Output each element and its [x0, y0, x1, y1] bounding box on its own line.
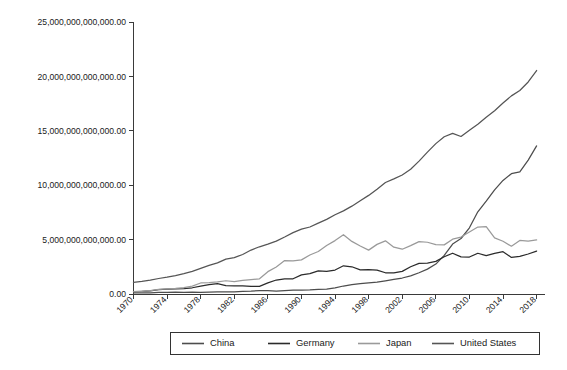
series-lines [134, 71, 537, 293]
x-tick-label: 1990 [282, 294, 303, 315]
chart-legend: ChinaGermanyJapanUnited States [171, 333, 540, 355]
y-tick-label: 20,000,000,000,000.00 [38, 72, 127, 82]
y-axis-tick-marks [129, 22, 134, 294]
y-tick-label: 5,000,000,000,000.00 [42, 235, 126, 245]
y-tick-label: 25,000,000,000,000.00 [38, 17, 127, 27]
x-tick-label: 2010 [450, 294, 471, 315]
x-tick-label: 2018 [517, 294, 538, 315]
line-chart: 0.005,000,000,000,000.0010,000,000,000,0… [0, 0, 567, 370]
x-tick-label: 1994 [316, 294, 337, 315]
legend-label-china: China [210, 337, 235, 348]
x-tick-label: 2014 [484, 294, 505, 315]
x-tick-label: 1986 [249, 294, 270, 315]
series-line-united-states [134, 71, 537, 283]
x-tick-label: 1998 [349, 294, 370, 315]
y-tick-label: 10,000,000,000,000.00 [38, 180, 127, 190]
x-tick-label: 1982 [215, 294, 236, 315]
x-tick-label: 1978 [182, 294, 203, 315]
y-tick-label: 15,000,000,000,000.00 [38, 126, 127, 136]
y-axis-tick-labels: 0.005,000,000,000,000.0010,000,000,000,0… [38, 17, 127, 299]
legend-label-united-states: United States [460, 337, 517, 348]
x-axis-tick-labels: 1970197419781982198619901994199820022006… [114, 294, 538, 315]
x-tick-label: 1974 [148, 294, 169, 315]
legend-label-germany: Germany [296, 337, 335, 348]
x-tick-label: 2002 [383, 294, 404, 315]
legend-label-japan: Japan [386, 337, 412, 348]
x-tick-label: 2006 [417, 294, 438, 315]
series-line-japan [134, 227, 537, 292]
chart-container: 0.005,000,000,000,000.0010,000,000,000,0… [0, 0, 567, 370]
